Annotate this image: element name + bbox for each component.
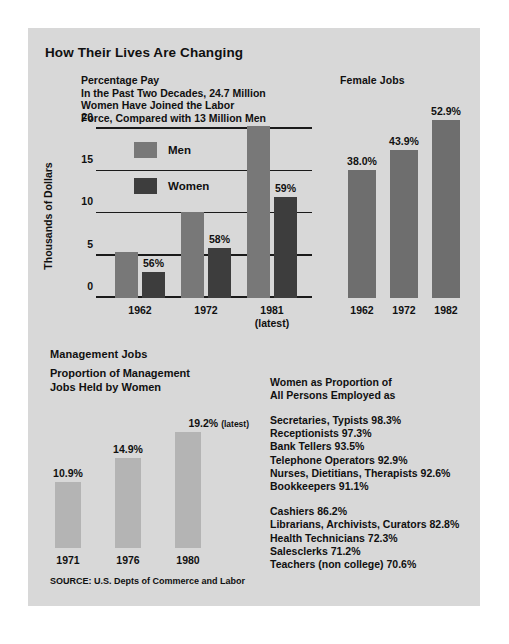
ytick-label-20: 20 (81, 111, 93, 123)
ytick-15 (96, 170, 102, 172)
list-item: Receptionists 97.3% (270, 427, 475, 440)
pay-y-axis-title: Thousands of Dollars (42, 162, 54, 269)
management-jobs-subtitle: Proportion of Management Jobs Held by Wo… (50, 367, 190, 394)
list-item: Bookkeepers 91.1% (270, 480, 475, 493)
xlabel-management-1976: 1976 (116, 554, 139, 567)
list-item: Teachers (non college) 70.6% (270, 558, 475, 571)
pay-heading-line-1: Percentage Pay (81, 74, 266, 87)
occupations-group-mid: Cashiers 86.2% Librarians, Archivists, C… (270, 505, 475, 571)
list-item: Nurses, Dietitians, Therapists 92.6% (270, 467, 475, 480)
legend-swatch-women-icon (134, 178, 157, 194)
bar-pct-management-1971: 10.9% (53, 467, 83, 479)
xlabel-female-1972: 1972 (392, 304, 415, 317)
bar-pct-management-1980-value: 19.2% (188, 417, 218, 429)
xlabel-1981-note: (latest) (255, 317, 289, 329)
list-item: Salesclerks 71.2% (270, 545, 475, 558)
bar-pct-1972: 58% (209, 233, 230, 245)
female-jobs-title: Female Jobs (340, 74, 405, 86)
bar-pct-1981: 59% (275, 182, 296, 194)
bar-pct-management-1976: 14.9% (113, 443, 143, 455)
percentage-pay-chart: Thousands of Dollars 0 5 10 15 20 Men (50, 122, 320, 327)
management-jobs-chart: Management Jobs Proportion of Management… (50, 348, 265, 568)
occupations-group-high: Secretaries, Typists 98.3% Receptionists… (270, 414, 475, 493)
gridline-20 (102, 127, 312, 129)
xlabel-1962: 1962 (128, 304, 151, 317)
pay-plot-area: 0 5 10 15 20 Men Women (102, 122, 312, 298)
list-item: Telephone Operators 92.9% (270, 454, 475, 467)
female-jobs-plot-area: 38.0% 1962 43.9% 1972 52.9% 1982 (342, 102, 466, 298)
ytick-0 (96, 296, 102, 298)
bar-pct-female-1982: 52.9% (431, 105, 461, 117)
xlabel-female-1962: 1962 (350, 304, 373, 317)
source-note: SOURCE: U.S. Depts of Commerce and Labor (50, 576, 245, 586)
bar-pct-1962: 56% (143, 257, 164, 269)
list-item: Health Technicians 72.3% (270, 532, 475, 545)
bar-female-jobs-1962: 38.0% 1962 (348, 170, 376, 298)
bar-management-1976: 14.9% 1976 (115, 458, 141, 548)
xlabel-female-1982: 1982 (434, 304, 457, 317)
management-subtitle-line-2: Jobs Held by Women (50, 381, 190, 395)
ytick-5 (96, 254, 102, 256)
bar-pct-management-1980: 19.2% (latest) (188, 417, 249, 429)
ytick-label-15: 15 (81, 153, 93, 165)
bar-men-1981 (247, 126, 270, 298)
pay-heading-line-2: In the Past Two Decades, 24.7 Million (81, 87, 266, 100)
legend-label-women: Women (168, 180, 209, 192)
ytick-label-0: 0 (87, 280, 93, 292)
gridline-15 (102, 170, 312, 172)
management-jobs-plot-area: 10.9% 1971 14.9% 1976 19.2% (latest) 198… (50, 406, 230, 548)
bar-female-jobs-1982: 52.9% 1982 (432, 120, 460, 298)
occupations-panel: Women as Proportion of All Persons Emplo… (270, 376, 475, 571)
legend-item-men: Men (134, 142, 191, 158)
list-item: Secretaries, Typists 98.3% (270, 414, 475, 427)
page-title: How Their Lives Are Changing (45, 45, 243, 60)
pay-chart-heading: Percentage Pay In the Past Two Decades, … (81, 74, 266, 124)
legend-item-women: Women (134, 178, 209, 194)
pay-heading-line-3: Women Have Joined the Labor (81, 99, 266, 112)
bar-women-1972: 58% (208, 248, 231, 298)
management-jobs-title: Management Jobs (50, 348, 147, 360)
ytick-20 (96, 127, 102, 129)
legend-swatch-men-icon (134, 142, 157, 158)
bar-pct-female-1962: 38.0% (347, 155, 377, 167)
management-subtitle-line-1: Proportion of Management (50, 367, 190, 381)
ytick-10 (96, 212, 102, 214)
xlabel-management-1971: 1971 (56, 554, 79, 567)
infographic-panel: How Their Lives Are Changing Percentage … (28, 28, 480, 606)
bar-pct-female-1972: 43.9% (389, 135, 419, 147)
bar-management-1971: 10.9% 1971 (55, 482, 81, 548)
xlabel-1981-year: 1981 (260, 304, 283, 316)
occupations-heading-line-1: Women as Proportion of (270, 376, 475, 389)
occupations-heading-line-2: All Persons Employed as (270, 389, 475, 402)
bar-women-1962: 56% (142, 272, 165, 298)
bar-men-1962 (115, 252, 138, 299)
bar-women-1981: 59% (274, 197, 297, 299)
xlabel-management-1980: 1980 (176, 554, 199, 567)
ytick-label-10: 10 (81, 195, 93, 207)
bar-management-1980: 19.2% (latest) 1980 (175, 432, 201, 548)
ytick-label-5: 5 (87, 238, 93, 250)
bar-female-jobs-1972: 43.9% 1972 (390, 150, 418, 298)
legend-label-men: Men (168, 144, 191, 156)
female-jobs-chart: Female Jobs 38.0% 1962 43.9% 1972 52.9% … (340, 74, 470, 329)
bar-pct-management-1980-note: (latest) (221, 419, 249, 429)
list-item: Librarians, Archivists, Curators 82.8% (270, 518, 475, 531)
list-item: Cashiers 86.2% (270, 505, 475, 518)
list-item: Bank Tellers 93.5% (270, 440, 475, 453)
occupations-heading: Women as Proportion of All Persons Emplo… (270, 376, 475, 402)
xlabel-1972: 1972 (194, 304, 217, 317)
bar-men-1972 (181, 212, 204, 298)
xlabel-1981: 1981 (latest) (255, 304, 289, 329)
